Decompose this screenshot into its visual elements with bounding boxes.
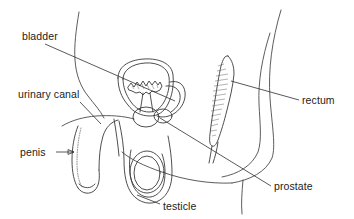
anatomy-illustration: bladder urinary canal penis testicle rec…	[0, 0, 354, 219]
testicle-inner	[134, 156, 160, 190]
label-penis: penis	[20, 146, 46, 158]
urinary-canal-dotted	[77, 128, 82, 187]
abdominal-wall-line	[75, 12, 104, 118]
prostate-leader-line	[160, 118, 271, 186]
label-urinary-canal: urinary canal	[18, 88, 79, 100]
label-prostate: prostate	[274, 180, 313, 192]
bladder-neck-right	[150, 93, 153, 112]
back-inner-line	[222, 33, 270, 177]
rectum-organ	[209, 56, 234, 163]
prostate-gland	[133, 107, 159, 127]
penis-glans-crease	[79, 184, 95, 188]
bladder-inner-wall	[123, 63, 169, 112]
urinary-canal-leader-line	[80, 102, 101, 124]
perineum-line	[242, 180, 243, 214]
bladder-neck-left	[140, 93, 143, 112]
scrotum-group	[114, 119, 172, 203]
spermatic-cord-line	[114, 119, 119, 156]
back-outer-line	[232, 10, 281, 183]
gluteal-fold-line	[122, 152, 232, 183]
penis-glans	[78, 170, 99, 193]
labels-group: bladder urinary canal penis testicle rec…	[18, 30, 335, 212]
label-testicle: testicle	[163, 200, 197, 212]
label-bladder: bladder	[22, 30, 58, 42]
testicle-leader-line	[137, 195, 160, 204]
penis-organ	[72, 120, 118, 193]
rectum-leader-line	[231, 81, 299, 100]
rectum-outline	[210, 56, 234, 146]
label-rectum: rectum	[302, 94, 335, 106]
anatomy-diagram: bladder urinary canal penis testicle rec…	[0, 0, 354, 219]
testicle-oval	[130, 151, 164, 193]
